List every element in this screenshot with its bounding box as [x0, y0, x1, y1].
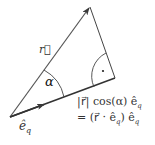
right-angle-dot — [102, 70, 104, 72]
projection-formula-line2: = (r⃗ · êq) êq — [77, 112, 139, 126]
angle-alpha-label: α — [45, 75, 54, 88]
unit-vector-label: êq — [19, 120, 31, 135]
perpendicular-line — [90, 7, 115, 78]
projection-formula-line1: |r⃗| cos(α) êq — [77, 96, 142, 110]
r-vector-label: r⃗ — [39, 44, 51, 55]
